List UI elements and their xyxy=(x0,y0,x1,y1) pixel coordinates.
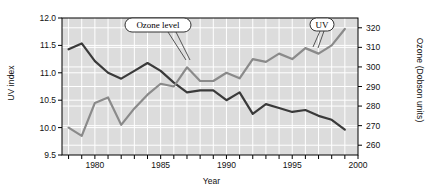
x-axis-title: Year xyxy=(0,176,423,186)
x-tick-2000: 2000 xyxy=(338,160,378,170)
y-right-tick-260: 260 xyxy=(366,140,400,150)
uv-callout-text: UV xyxy=(316,20,329,30)
y-left-tick-10.0: 10.0 xyxy=(22,123,56,133)
x-tick-1985: 1985 xyxy=(141,160,181,170)
y-left-tick-10.5: 10.5 xyxy=(22,95,56,105)
y-left-tick-9.5: 9.5 xyxy=(22,150,56,160)
ozone-level-callout-text: Ozone level xyxy=(136,20,180,30)
y-right-tick-300: 300 xyxy=(366,62,400,72)
y-axis-left-title: UV index xyxy=(6,53,16,113)
x-tick-1990: 1990 xyxy=(206,160,246,170)
y-right-tick-290: 290 xyxy=(366,82,400,92)
y-right-tick-280: 280 xyxy=(366,101,400,111)
y-left-tick-11.5: 11.5 xyxy=(22,40,56,50)
y-right-tick-270: 270 xyxy=(366,121,400,131)
x-tick-1980: 1980 xyxy=(75,160,115,170)
y-right-tick-320: 320 xyxy=(366,23,400,33)
y-axis-right-title: Ozone (Dobson units) xyxy=(415,20,425,140)
x-tick-1995: 1995 xyxy=(272,160,312,170)
y-right-tick-310: 310 xyxy=(366,42,400,52)
y-left-tick-12.0: 12.0 xyxy=(22,13,56,23)
y-left-tick-11.0: 11.0 xyxy=(22,68,56,78)
